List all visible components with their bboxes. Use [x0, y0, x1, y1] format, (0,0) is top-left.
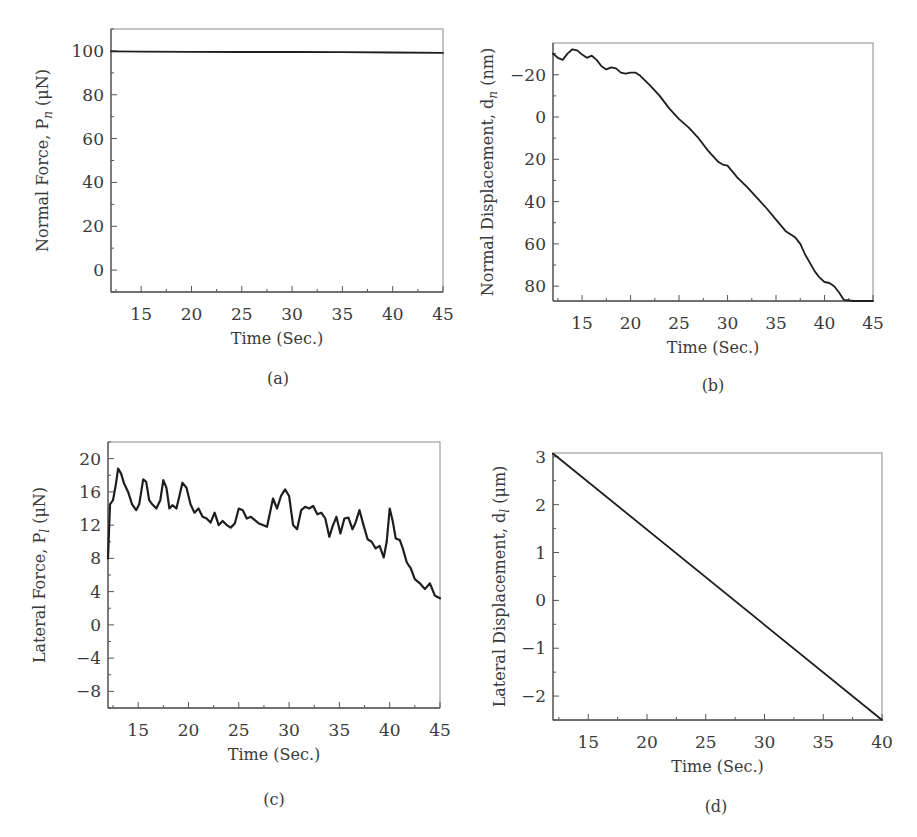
x-tick-label: 35	[765, 313, 787, 333]
y-tick-label: −20	[510, 65, 546, 85]
chart-panel-d: 152025303540−2−10123Time (Sec.)Lateral D…	[490, 447, 893, 816]
x-tick-label: 30	[281, 304, 303, 324]
y-tick-label: 80	[524, 276, 546, 296]
x-tick-label: 30	[754, 732, 776, 752]
panel-label: (c)	[263, 790, 284, 809]
x-tick-label: 20	[181, 304, 203, 324]
chart-panel-b: 15202530354045−20020406080Time (Sec.)Nor…	[478, 43, 884, 395]
x-tick-label: 45	[862, 313, 884, 333]
y-axis-title: Normal Displacement, dn (nm)	[478, 48, 500, 296]
panel-label: (b)	[702, 376, 725, 395]
x-tick-label: 15	[127, 720, 149, 740]
y-tick-label: 0	[93, 260, 104, 280]
x-axis-title: Time (Sec.)	[228, 745, 320, 764]
figure: 15202530354045020406080100Time (Sec.)Nor…	[0, 0, 917, 837]
y-tick-label: 20	[524, 149, 546, 169]
x-tick-label: 25	[668, 313, 690, 333]
x-tick-label: 35	[332, 304, 354, 324]
y-tick-label: 40	[82, 172, 104, 192]
x-tick-label: 35	[329, 720, 351, 740]
x-tick-label: 30	[278, 720, 300, 740]
x-axis-title: Time (Sec.)	[671, 757, 763, 776]
x-tick-label: 45	[432, 304, 454, 324]
y-tick-label: 20	[79, 449, 101, 469]
y-tick-label: 80	[82, 85, 104, 105]
y-tick-label: −4	[76, 648, 101, 668]
chart-panel-c: 15202530354045−8−4048121620Time (Sec.)La…	[30, 442, 451, 809]
x-tick-label: 20	[178, 720, 200, 740]
y-tick-label: 8	[90, 548, 101, 568]
data-line	[111, 51, 443, 53]
x-axis-title: Time (Sec.)	[667, 338, 759, 357]
x-tick-label: 20	[636, 732, 658, 752]
y-tick-label: 16	[79, 482, 101, 502]
y-tick-label: −8	[76, 681, 101, 701]
y-tick-label: 40	[524, 192, 546, 212]
y-tick-label: −1	[521, 638, 546, 658]
figure-canvas: 15202530354045020406080100Time (Sec.)Nor…	[0, 0, 917, 837]
x-tick-label: 15	[571, 313, 593, 333]
x-tick-label: 40	[871, 732, 893, 752]
x-tick-label: 40	[382, 304, 404, 324]
y-tick-label: 2	[535, 495, 546, 515]
y-axis-title: Lateral Force, Pl (μN)	[30, 487, 52, 663]
x-tick-label: 15	[577, 732, 599, 752]
plot-frame	[108, 442, 440, 708]
x-tick-label: 40	[379, 720, 401, 740]
y-tick-label: 3	[535, 447, 546, 467]
y-tick-label: 0	[535, 107, 546, 127]
x-tick-label: 35	[812, 732, 834, 752]
x-tick-label: 25	[228, 720, 250, 740]
plot-frame	[111, 29, 443, 292]
y-tick-label: 0	[90, 615, 101, 635]
y-tick-label: 0	[535, 590, 546, 610]
x-tick-label: 40	[814, 313, 836, 333]
x-axis-title: Time (Sec.)	[231, 329, 323, 348]
y-tick-label: 12	[79, 515, 101, 535]
y-tick-label: −2	[521, 686, 546, 706]
y-tick-label: 60	[82, 129, 104, 149]
x-tick-label: 20	[620, 313, 642, 333]
x-tick-label: 25	[695, 732, 717, 752]
chart-panel-a: 15202530354045020406080100Time (Sec.)Nor…	[33, 29, 454, 388]
data-line	[553, 49, 873, 301]
panel-label: (a)	[267, 369, 289, 388]
data-line	[553, 454, 882, 721]
x-tick-label: 30	[717, 313, 739, 333]
y-tick-label: 100	[72, 41, 104, 61]
y-axis-title: Normal Force, Pn (μN)	[33, 69, 55, 252]
y-axis-title: Lateral Displacement, dl (μm)	[490, 466, 512, 708]
y-tick-label: 60	[524, 234, 546, 254]
x-tick-label: 45	[429, 720, 451, 740]
plot-frame	[553, 43, 873, 301]
panel-label: (d)	[705, 797, 728, 816]
x-tick-label: 15	[130, 304, 152, 324]
y-tick-label: 4	[90, 582, 101, 602]
data-line	[108, 469, 440, 599]
y-tick-label: 1	[535, 543, 546, 563]
x-tick-label: 25	[231, 304, 253, 324]
y-tick-label: 20	[82, 216, 104, 236]
